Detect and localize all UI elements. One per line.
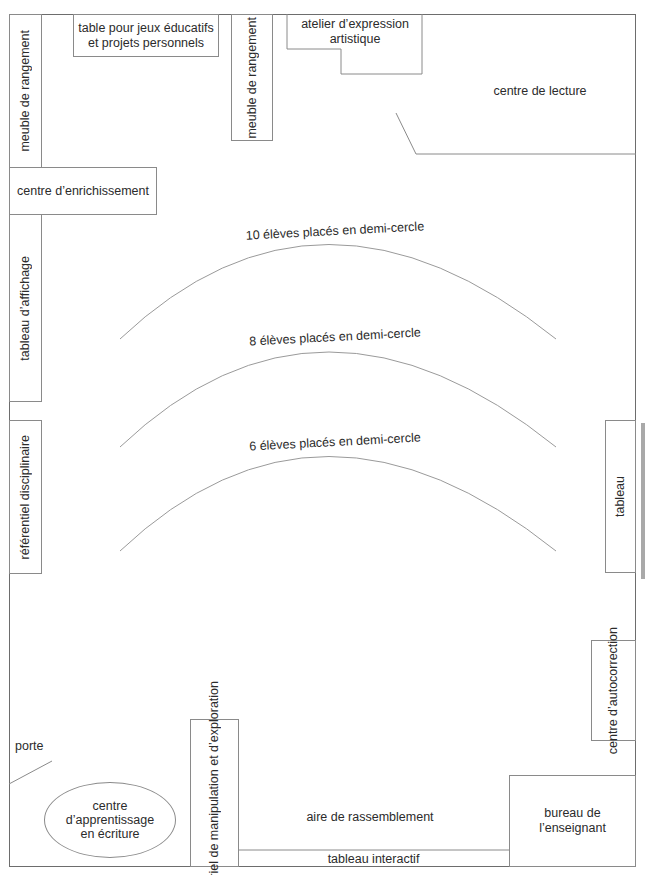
blackboard: tableau — [605, 420, 636, 573]
enrichment-center: centre d’enrichissement — [9, 167, 157, 215]
interactive-board-label: tableau interactif — [238, 852, 509, 867]
writing-center-ellipse: centre d’apprentissage en écriture — [44, 782, 176, 858]
arc-8-students — [120, 352, 556, 447]
manipulation-materials: matériel de manipulation et d’exploratio… — [190, 719, 239, 867]
page-edge-marker — [641, 423, 645, 579]
teacher-desk: bureau de l’enseignant — [509, 775, 636, 867]
door-label: porte — [15, 739, 44, 754]
reading-center-outline — [396, 113, 636, 154]
art-workshop-label: atelier d’expression artistique — [290, 17, 420, 47]
subject-reference: référentiel disciplinaire — [9, 420, 42, 574]
gathering-area-label: aire de rassemblement — [290, 810, 450, 825]
door-line — [9, 761, 52, 784]
arc-10-students — [120, 245, 556, 340]
bulletin-board: tableau d’affichage — [9, 214, 42, 402]
storage-unit-left: meuble de rangement — [9, 14, 42, 168]
reading-center-label: centre de lecture — [480, 84, 600, 99]
self-correction-center: centre d’autocorrection — [591, 640, 636, 741]
arc-6-students — [120, 457, 556, 552]
educational-games-table: table pour jeux éducatifs et projets per… — [73, 14, 219, 57]
storage-unit-center: meuble de rangement — [231, 14, 273, 141]
